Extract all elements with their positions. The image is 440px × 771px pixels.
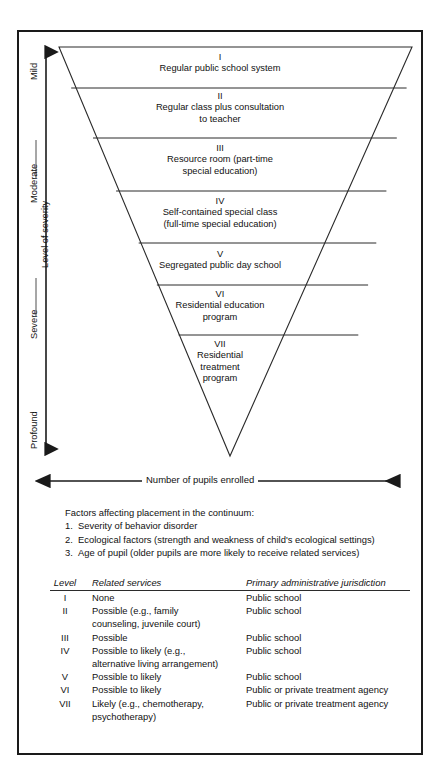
- factors-item-1-text: Severity of behavior disorder: [78, 520, 197, 531]
- row-services: Possible to likely (e.g.,: [92, 644, 252, 657]
- row-services: Possible to likely: [92, 670, 252, 683]
- factors-item-2: 2.Ecological factors (strength and weakn…: [65, 533, 375, 546]
- row-services-continued: counseling, juvenile court): [92, 617, 252, 630]
- table-row: IV Possible to likely (e.g., Public scho…: [50, 644, 410, 657]
- table-row: VII Likely (e.g., chemotherapy, Public o…: [50, 697, 410, 710]
- table-row: V Possible to likely Public school: [50, 670, 410, 683]
- table-header-row: Level Related services Primary administr…: [50, 576, 410, 591]
- factors-item-2-text: Ecological factors (strength and weaknes…: [78, 534, 375, 545]
- row-level: I: [50, 591, 80, 604]
- table-header-jurisdiction: Primary administrative jurisdiction: [246, 576, 386, 589]
- table-row: VI Possible to likely Public or private …: [50, 683, 410, 696]
- row-level: V: [50, 670, 80, 683]
- row-level: VII: [50, 697, 80, 710]
- table-row: I None Public school: [50, 591, 410, 604]
- factors-item-3-number: 3.: [65, 546, 78, 559]
- inverted-triangle: [59, 47, 412, 456]
- row-jurisdiction: Public school: [246, 631, 423, 644]
- yaxis-tick-severe: Severe: [29, 310, 39, 339]
- factors-item-2-number: 2.: [65, 533, 78, 546]
- row-level: VI: [50, 683, 80, 696]
- row-jurisdiction: Public school: [246, 670, 423, 683]
- row-jurisdiction: Public or private treatment agency: [246, 683, 423, 696]
- row-services: Possible: [92, 631, 252, 644]
- row-services-continued: psychotherapy): [92, 710, 252, 723]
- table-header-level: Level: [50, 576, 80, 589]
- factors-item-3-text: Age of pupil (older pupils are more like…: [78, 547, 359, 558]
- table-header-related-services: Related services: [92, 576, 161, 589]
- xaxis-label: Number of pupils enrolled: [142, 474, 258, 485]
- table-row-continuation: counseling, juvenile court): [50, 617, 410, 630]
- yaxis-title: Level of severity: [40, 201, 50, 268]
- yaxis-tick-profound: Profound: [29, 411, 39, 449]
- table-row: III Possible Public school: [50, 631, 410, 644]
- factors-item-1: 1.Severity of behavior disorder: [65, 519, 375, 532]
- row-level: III: [50, 631, 80, 644]
- table-row: II Possible (e.g., family Public school: [50, 604, 410, 617]
- yaxis-tick-moderate: Moderate: [29, 164, 39, 203]
- row-level: IV: [50, 644, 80, 657]
- row-level: II: [50, 604, 80, 617]
- row-services-continued: alternative living arrangement): [92, 657, 252, 670]
- row-jurisdiction: Public school: [246, 604, 423, 617]
- factors-block: Factors affecting placement in the conti…: [65, 506, 375, 560]
- yaxis-tick-mild: Mild: [29, 63, 39, 80]
- factors-item-3: 3.Age of pupil (older pupils are more li…: [65, 546, 375, 559]
- services-table: Level Related services Primary administr…: [50, 576, 410, 723]
- row-services: None: [92, 591, 252, 604]
- table-row-continuation: psychotherapy): [50, 710, 410, 723]
- row-jurisdiction: Public or private treatment agency: [246, 697, 423, 710]
- figure-panel: Level of severity Mild Moderate Severe P…: [17, 30, 423, 755]
- row-services: Possible (e.g., family: [92, 604, 252, 617]
- factors-item-1-number: 1.: [65, 519, 78, 532]
- row-services: Possible to likely: [92, 683, 252, 696]
- row-jurisdiction: Public school: [246, 644, 423, 657]
- row-services: Likely (e.g., chemotherapy,: [92, 697, 252, 710]
- table-row-continuation: alternative living arrangement): [50, 657, 410, 670]
- row-jurisdiction: Public school: [246, 591, 423, 604]
- factors-heading: Factors affecting placement in the conti…: [65, 506, 375, 519]
